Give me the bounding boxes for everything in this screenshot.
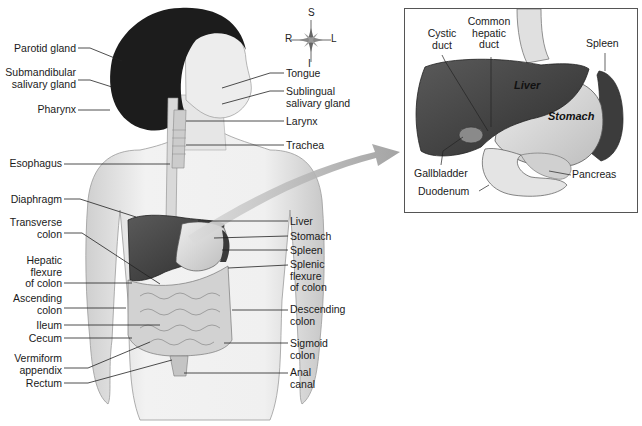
label-sigmoid-colon: Sigmoid colon [290, 338, 328, 361]
label-pharynx: Pharynx [20, 104, 76, 116]
label-hepatic-flexure-of-colon: Hepatic flexure of colon [0, 255, 62, 290]
label-anal-canal: Anal canal [290, 367, 315, 390]
compass-right-label: R [285, 33, 292, 44]
inset-organ-label-stomach: Stomach [548, 110, 594, 122]
label-submandibular-salivary-gland: Submandibular salivary gland [0, 67, 76, 90]
label-rectum: Rectum [0, 378, 62, 390]
inset-organ-label-liver: Liver [514, 79, 540, 91]
label-vermiform-appendix: Vermiform appendix [0, 353, 62, 376]
label-trachea: Trachea [286, 140, 324, 152]
label-cecum: Cecum [0, 333, 62, 345]
inset-label-pancreas: Pancreas [572, 169, 616, 181]
label-larynx: Larynx [286, 116, 318, 128]
label-esophagus: Esophagus [0, 158, 62, 170]
label-descending-colon: Descending colon [290, 304, 345, 327]
label-tongue: Tongue [286, 68, 320, 80]
label-sublingual-salivary-gland: Sublingual salivary gland [286, 86, 350, 109]
label-ascending-colon: Ascending colon [0, 293, 62, 316]
label-liver: Liver [290, 216, 313, 228]
inset-label-duodenum: Duodenum [418, 186, 469, 198]
compass-superior-label: S [308, 7, 315, 18]
label-ileum: Ileum [0, 320, 62, 332]
inset-label-cystic-duct: Cystic duct [425, 28, 459, 51]
inset-label-gallbladder: Gallbladder [414, 168, 468, 180]
digestive-system-figure: S I R L Parotid gland Submandibular sali… [0, 0, 642, 426]
label-parotid-gland: Parotid gland [10, 43, 76, 55]
label-stomach: Stomach [290, 231, 331, 243]
label-splenic-flexure-of-colon: Splenic flexure of colon [290, 259, 327, 294]
compass-left-label: L [331, 33, 337, 44]
label-spleen: Spleen [290, 245, 323, 257]
compass-rose-icon [291, 20, 331, 62]
inset-label-common-hepatic-duct: Common hepatic duct [466, 16, 512, 51]
label-diaphragm: Diaphragm [0, 194, 62, 206]
label-transverse-colon: Transverse colon [0, 217, 62, 240]
inset-label-spleen: Spleen [586, 38, 619, 50]
